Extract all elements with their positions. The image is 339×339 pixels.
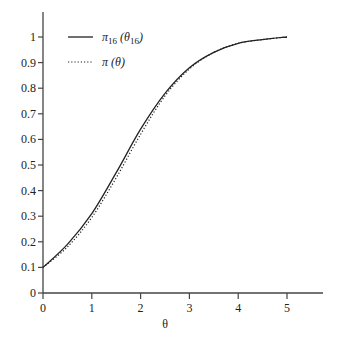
y-ticks: 00.10.20.30.40.50.60.70.80.91	[21, 30, 43, 300]
x-tick-label: 1	[89, 301, 95, 315]
x-tick-label: 5	[284, 301, 290, 315]
series-group	[43, 37, 287, 267]
x-tick-label: 2	[138, 301, 144, 315]
y-tick-label: 0.3	[21, 209, 36, 223]
x-axis-label: θ	[162, 317, 168, 331]
y-tick-label: 0.6	[21, 132, 36, 146]
line-chart: 00.10.20.30.40.50.60.70.80.91 012345 θ π…	[0, 0, 339, 339]
x-ticks: 012345	[40, 293, 290, 315]
x-tick-label: 3	[186, 301, 192, 315]
y-tick-label: 0.1	[21, 260, 36, 274]
y-tick-label: 0.8	[21, 81, 36, 95]
y-tick-label: 0.5	[21, 158, 36, 172]
series-dotted-line	[43, 37, 287, 267]
y-tick-label: 0	[30, 286, 36, 300]
legend: π16(θ16) π (θ)	[68, 30, 143, 69]
y-tick-label: 0.2	[21, 235, 36, 249]
legend-solid-label: π16(θ16)	[102, 30, 143, 46]
y-tick-label: 1	[30, 30, 36, 44]
legend-dotted-label: π (θ)	[102, 55, 125, 69]
y-tick-label: 0.4	[21, 184, 36, 198]
x-tick-label: 4	[235, 301, 241, 315]
axes: 00.10.20.30.40.50.60.70.80.91 012345 θ	[21, 12, 323, 331]
y-tick-label: 0.7	[21, 107, 36, 121]
y-tick-label: 0.9	[21, 56, 36, 70]
x-tick-label: 0	[40, 301, 46, 315]
series-solid-line	[43, 37, 287, 267]
